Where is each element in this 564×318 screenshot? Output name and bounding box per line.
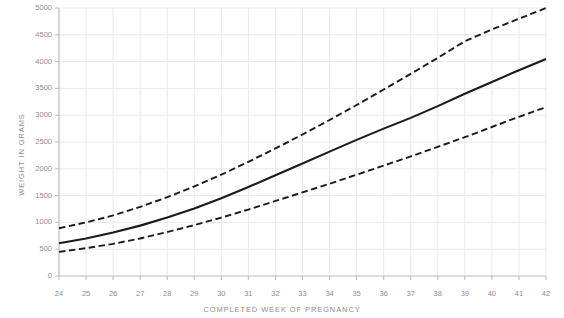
y-axis-tick-label: 3000	[18, 110, 52, 119]
y-axis-tick-label: 4500	[18, 30, 52, 39]
x-axis-title: COMPLETED WEEK OF PREGNANCY	[0, 305, 564, 314]
fetal-growth-chart: WEIGHT IN GRAMS COMPLETED WEEK OF PREGNA…	[0, 0, 564, 318]
y-axis-tick-label: 3500	[18, 83, 52, 92]
x-axis-tick-label: 42	[532, 289, 560, 298]
x-axis-tick-label: 41	[505, 289, 533, 298]
y-axis-tick-label: 500	[18, 244, 52, 253]
x-axis-tick-label: 31	[234, 289, 262, 298]
x-axis-tick-label: 29	[180, 289, 208, 298]
x-axis-tick-label: 26	[99, 289, 127, 298]
y-axis-tick-label: 4000	[18, 57, 52, 66]
y-axis-tick-label: 1500	[18, 191, 52, 200]
x-axis-tick-label: 38	[424, 289, 452, 298]
y-axis-title: WEIGHT IN GRAMS	[17, 90, 26, 220]
x-axis-tick-label: 33	[289, 289, 317, 298]
grid-lines	[59, 8, 546, 276]
y-axis-tick-label: 0	[18, 271, 52, 280]
y-axis-tick-label: 2500	[18, 137, 52, 146]
x-axis-tick-label: 27	[126, 289, 154, 298]
y-axis-tick-label: 5000	[18, 3, 52, 12]
x-axis-tick-label: 28	[153, 289, 181, 298]
x-axis-tick-label: 34	[316, 289, 344, 298]
y-axis-tick-label: 1000	[18, 217, 52, 226]
x-axis-tick-label: 39	[451, 289, 479, 298]
x-axis-tick-label: 25	[72, 289, 100, 298]
x-axis-tick-label: 30	[207, 289, 235, 298]
x-axis-tick-label: 40	[478, 289, 506, 298]
x-axis-tick-label: 35	[343, 289, 371, 298]
y-axis-tick-label: 2000	[18, 164, 52, 173]
x-axis-tick-label: 37	[397, 289, 425, 298]
x-axis-tick-label: 32	[261, 289, 289, 298]
axis-lines	[55, 8, 546, 280]
chart-plot-area	[0, 0, 564, 318]
x-axis-tick-label: 36	[370, 289, 398, 298]
x-axis-tick-label: 24	[45, 289, 73, 298]
